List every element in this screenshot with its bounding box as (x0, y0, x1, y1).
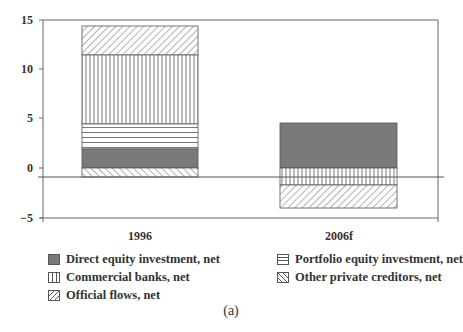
legend-label: Other private creditors, net (295, 270, 442, 285)
x-category-label: 1996 (128, 229, 152, 243)
y-tick-label: 5 (27, 111, 33, 125)
diagonal-down-swatch-icon (277, 272, 289, 283)
y-axis: 15 10 5 0 −5 (20, 13, 43, 225)
segment-commercial-banks (82, 55, 198, 124)
legend-item-portfolio-equity: Portfolio equity investment, net (277, 252, 463, 267)
legend-item-other-private-creditors: Other private creditors, net (277, 270, 442, 285)
legend-item-direct-equity: Direct equity investment, net (48, 252, 220, 267)
horizontal-stripes-swatch-icon (277, 254, 289, 265)
y-tick-label: 0 (27, 161, 33, 175)
segment-direct-equity (280, 123, 397, 168)
vertical-stripes-swatch-icon (48, 272, 60, 283)
legend-item-official-flows: Official flows, net (48, 288, 160, 303)
segment-direct-equity (82, 149, 198, 168)
x-category-label: 2006f (325, 229, 354, 243)
segment-other-private-creditors (82, 26, 198, 55)
legend-label: Commercial banks, net (66, 270, 190, 285)
solid-swatch-icon (48, 254, 60, 265)
legend-item-commercial-banks: Commercial banks, net (48, 270, 190, 285)
figure-caption: (a) (0, 303, 462, 319)
segment-official-flows (82, 168, 198, 177)
bar-2006f (280, 123, 397, 208)
diagonal-up-swatch-icon (48, 290, 60, 301)
bar-1996 (82, 26, 198, 177)
y-tick-label: −5 (20, 211, 33, 225)
legend-label: Direct equity investment, net (66, 252, 220, 267)
y-tick-label: 15 (21, 13, 33, 27)
segment-other-private-creditors (280, 185, 397, 208)
legend-label: Portfolio equity investment, net (295, 252, 463, 267)
legend-label: Official flows, net (66, 288, 160, 303)
y-tick-label: 10 (21, 62, 33, 76)
segment-portfolio-equity (82, 124, 198, 149)
